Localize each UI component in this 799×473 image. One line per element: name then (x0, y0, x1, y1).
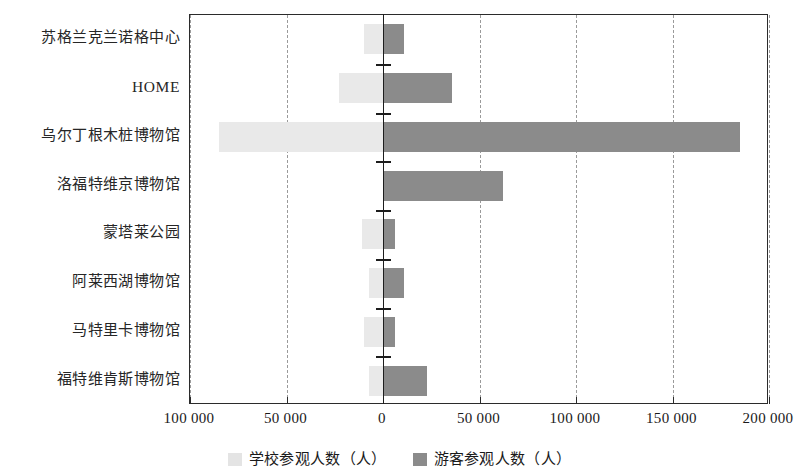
category-label: 乌尔丁根木桩博物馆 (0, 128, 180, 143)
category-label: 蒙塔莱公园 (0, 225, 180, 240)
category-axis-labels: 苏格兰克兰诺格中心HOME乌尔丁根木桩博物馆洛福特维京博物馆蒙塔莱公园阿莱西湖博… (0, 14, 184, 404)
bar-tourist-visits (383, 268, 404, 298)
bidirectional-bar-chart: 苏格兰克兰诺格中心HOME乌尔丁根木桩博物馆洛福特维京博物馆蒙塔莱公园阿莱西湖博… (0, 0, 799, 473)
category-axis-tick (376, 113, 391, 115)
x-axis-tick-label: 0 (378, 408, 386, 428)
bar-school-visits (369, 366, 383, 396)
gridline (190, 15, 191, 403)
bar-tourist-visits (383, 122, 740, 152)
x-axis-tick (769, 397, 770, 404)
bar-tourist-visits (383, 24, 404, 54)
x-axis-tick-label: 50 000 (457, 408, 500, 428)
bar-tourist-visits (383, 171, 503, 201)
x-axis-tick (576, 397, 577, 404)
gridline (287, 15, 288, 403)
x-axis-tick-label: 50 000 (264, 408, 307, 428)
x-axis-tick (190, 397, 191, 404)
bar-tourist-visits (383, 219, 395, 249)
x-axis-tick-label: 150 000 (646, 408, 697, 428)
x-axis-tick-labels: 100 00050 000050 000100 000150 000200 00… (189, 408, 768, 432)
category-label: 苏格兰克兰诺格中心 (0, 30, 180, 45)
gridline (480, 15, 481, 403)
bar-tourist-visits (383, 317, 395, 347)
category-label: HOME (0, 79, 180, 95)
bar-school-visits (219, 122, 383, 152)
x-axis-tick (480, 397, 481, 404)
category-axis-tick (376, 259, 391, 261)
category-label: 洛福特维京博物馆 (0, 177, 180, 192)
bar-school-visits (369, 268, 383, 298)
x-axis-tick (673, 397, 674, 404)
x-axis-tick-label: 100 000 (550, 408, 601, 428)
legend-swatch-tourist (413, 453, 427, 466)
legend-item: 学校参观人数（人） (228, 452, 387, 467)
category-axis-tick (376, 210, 391, 212)
bar-tourist-visits (383, 366, 427, 396)
category-label: 福特维肯斯博物馆 (0, 372, 180, 387)
plot-area (189, 14, 768, 404)
legend-item: 游客参观人数（人） (413, 452, 572, 467)
gridline (673, 15, 674, 403)
zero-axis-line (383, 14, 384, 404)
bar-tourist-visits (383, 73, 452, 103)
legend-label: 游客参观人数（人） (434, 452, 572, 467)
bar-school-visits (362, 219, 383, 249)
category-axis-tick (376, 161, 391, 163)
category-axis-tick (376, 64, 391, 66)
bar-school-visits (364, 24, 383, 54)
legend-label: 学校参观人数（人） (249, 452, 387, 467)
x-axis-tick (287, 397, 288, 404)
category-axis-tick (376, 356, 391, 358)
legend-swatch-school (228, 453, 242, 466)
bar-school-visits (364, 317, 383, 347)
gridline (769, 15, 770, 403)
bar-school-visits (339, 73, 383, 103)
category-label: 阿莱西湖博物馆 (0, 274, 180, 289)
category-label: 马特里卡博物馆 (0, 323, 180, 338)
chart-legend: 学校参观人数（人）游客参观人数（人） (0, 446, 799, 472)
x-axis-tick-label: 100 000 (164, 408, 215, 428)
category-axis-tick (376, 308, 391, 310)
gridline (576, 15, 577, 403)
x-axis-tick-label: 200 000 (743, 408, 794, 428)
